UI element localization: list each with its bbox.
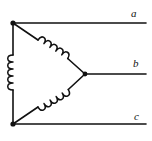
node-right [83,72,88,77]
node-bottom-left [10,121,15,126]
coil-lower-diagonal [13,74,85,124]
coil-upper-diagonal [13,23,85,74]
terminal-label-c: c [134,111,139,122]
coil-left-vertical [8,23,13,124]
terminal-label-b: b [133,58,139,69]
terminal-label-a: a [131,8,137,19]
delta-winding-diagram [0,0,152,141]
node-top-left [10,20,15,25]
